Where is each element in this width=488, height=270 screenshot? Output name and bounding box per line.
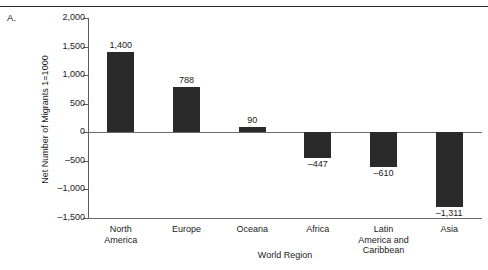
y-tick-label: 2,000 (62, 12, 85, 23)
bar (436, 132, 463, 207)
figure-top-rule (0, 6, 488, 7)
x-category-label-line: America and (351, 235, 417, 246)
bar (239, 127, 266, 132)
figure-panel: A. Net Number of Migrants 1=1000 2,0001,… (0, 0, 488, 270)
y-tick-label: –1,500 (57, 212, 85, 223)
y-tick-label: –500 (65, 155, 85, 166)
y-tick-label: 1,000 (62, 69, 85, 80)
bar-value-label: –610 (351, 168, 417, 179)
y-axis-title: Net Number of Migrants 1=1000 (40, 20, 51, 220)
bar-value-label: –447 (285, 159, 351, 170)
x-category-label: Asia (416, 224, 482, 235)
x-category-label-line: Africa (285, 224, 351, 235)
x-category-label: NorthAmerica (88, 224, 154, 245)
panel-letter-label: A. (7, 12, 16, 23)
bar-value-label: –1,311 (416, 208, 482, 219)
x-axis-title: World Region (88, 250, 482, 261)
bar (173, 87, 200, 132)
y-tick-label: 1,500 (62, 41, 85, 52)
x-category-label: Oceana (219, 224, 285, 235)
y-tick-label: 500 (70, 98, 85, 109)
y-tick-label: 0 (80, 126, 85, 137)
x-category-label: Europe (154, 224, 220, 235)
zero-baseline (88, 132, 482, 133)
x-category-label-line: Latin (351, 224, 417, 235)
bar (107, 52, 134, 132)
y-tick-label: –1,000 (57, 183, 85, 194)
bar (304, 132, 331, 158)
x-category-label-line: Oceana (219, 224, 285, 235)
x-category-label-line: North (88, 224, 154, 235)
x-category-label: Africa (285, 224, 351, 235)
plot-area: 2,0001,5001,0005000–500–1,000–1,500 1,40… (88, 18, 482, 218)
bar-value-label: 788 (154, 75, 220, 86)
bar-value-label: 1,400 (88, 40, 154, 51)
x-category-label-line: Asia (416, 224, 482, 235)
bar-value-label: 90 (219, 115, 285, 126)
x-category-label-line: Europe (154, 224, 220, 235)
x-category-label-line: America (88, 235, 154, 246)
bar (370, 132, 397, 167)
